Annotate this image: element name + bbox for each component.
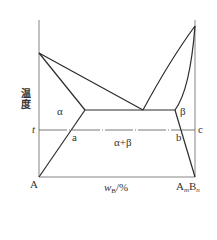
liquidus-left [39,53,143,110]
component-label-A: A [30,179,38,190]
temperature-t-label: t [32,124,35,135]
phase-label-beta: β [180,106,186,117]
solidus-alpha [39,53,85,110]
x-axis-label: wB/% [104,182,128,195]
solvus-alpha [39,110,85,177]
solvus-beta [175,110,195,177]
y-axis-label: 温度 [17,88,32,110]
component-label-AmBn: AmBn [176,181,200,194]
liquidus-right [143,26,195,110]
phase-label-alpha: α [57,106,63,117]
point-label-b: b [176,132,182,143]
point-label-c: c [198,124,203,135]
point-label-a: a [72,132,77,143]
solidus-beta [175,26,195,110]
phase-label-alpha-beta: α+β [114,137,132,148]
x-axis-unit: /% [116,181,128,193]
